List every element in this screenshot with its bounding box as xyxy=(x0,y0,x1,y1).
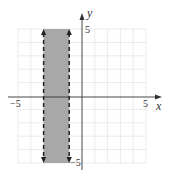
y-tick-neg5: −5 xyxy=(70,157,81,168)
graph: −5 5 5 −5 x y xyxy=(0,0,171,185)
x-axis-label: x xyxy=(155,99,162,113)
y-axis-label: y xyxy=(86,6,93,20)
shaded-region xyxy=(44,29,70,163)
x-tick-5: 5 xyxy=(143,98,148,109)
y-axis-arrow-icon xyxy=(80,13,85,20)
x-tick-neg5: −5 xyxy=(10,98,21,109)
y-tick-5: 5 xyxy=(85,24,90,35)
